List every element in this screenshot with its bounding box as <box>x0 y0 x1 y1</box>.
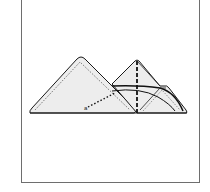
napkin-fold-diagram: a <box>0 0 210 192</box>
